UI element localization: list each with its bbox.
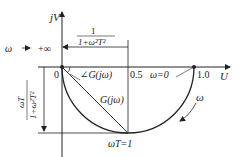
origin-point [60, 65, 64, 69]
vertical-axis-label: jV [48, 11, 61, 23]
tick-half: 0.5 [130, 69, 143, 80]
nyquist-diagram: jV U 0 0.5 1.0 ω +∞ ω=0 ∠G(jω) G(jω) ωT=… [0, 0, 240, 157]
omega-zero-label: ω=0 [150, 69, 169, 80]
angle-label: ∠G(jω) [80, 69, 113, 81]
omega-zero-leader [176, 68, 192, 77]
real-part-numerator: 1 [91, 26, 96, 36]
direction-arrow [180, 103, 196, 121]
magnitude-label: G(jω) [100, 94, 124, 106]
imag-part-denominator: 1+ω²T² [28, 91, 38, 119]
point-one [192, 65, 196, 69]
real-part-denominator: 1+ω²T² [78, 37, 106, 47]
direction-label: ω [196, 91, 204, 103]
omega-t-one-label: ωT=1 [108, 138, 132, 149]
angle-arc [68, 67, 70, 73]
tick-one: 1.0 [197, 69, 210, 80]
imag-part-numerator: ωT [16, 96, 26, 108]
origin-label: 0 [54, 69, 59, 80]
omega-inf-label: ω [5, 43, 12, 54]
omega-inf-value: +∞ [38, 43, 51, 54]
horizontal-axis-label: U [220, 70, 229, 82]
